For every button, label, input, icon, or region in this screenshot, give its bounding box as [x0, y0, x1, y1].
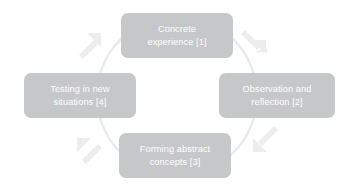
cycle-node-label: Observation and reflection [2]	[243, 83, 312, 109]
arrow-down-left-icon	[253, 126, 278, 152]
arrow-up-right-icon	[79, 33, 101, 59]
cycle-node-testing-in-new-situations[interactable]: Testing in new situations [4]	[24, 73, 136, 118]
cycle-node-observation-and-reflection[interactable]: Observation and reflection [2]	[219, 73, 335, 118]
arrow-down-right-icon	[241, 30, 268, 54]
arrow-up-left-icon	[77, 138, 102, 164]
cycle-node-label: Concrete experience [1]	[147, 23, 206, 49]
learning-cycle-diagram: Concrete experience [1] Observation and …	[0, 0, 346, 193]
cycle-node-forming-abstract-concepts[interactable]: Forming abstract concepts [3]	[119, 133, 231, 178]
cycle-node-label: Testing in new situations [4]	[50, 83, 110, 109]
cycle-node-label: Forming abstract concepts [3]	[140, 143, 211, 169]
cycle-node-concrete-experience[interactable]: Concrete experience [1]	[121, 13, 233, 58]
